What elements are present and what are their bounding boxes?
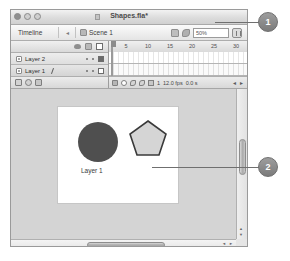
stage-canvas[interactable]: Layer 1 [57,106,179,204]
callout-badge-2: 2 [258,157,278,177]
scene-label: Scene 1 [89,29,113,36]
window-title: Shapes.fla* [11,12,247,19]
onion-outline-icon[interactable] [139,80,145,86]
horizontal-scroll-arrows: ◄ ► [222,242,233,246]
current-frame-value: 1 [157,80,160,86]
outline-color-swatch[interactable] [98,56,104,62]
pentagon-shape[interactable] [128,119,168,159]
layer-toolbar [11,76,108,88]
layer-row[interactable]: Layer 2 [11,53,108,65]
scroll-right-icon[interactable]: ► [229,242,233,246]
edit-scene-icon[interactable] [171,29,179,37]
timeline-panel-label: Timeline [11,29,58,36]
horizontal-scroll-thumb[interactable] [87,242,165,247]
elapsed-time-value: 0.0 s [186,80,198,86]
lock-toggle[interactable] [92,70,94,72]
outline-color-swatch[interactable] [98,68,104,74]
layer-name-label: Layer 1 [25,68,45,74]
edit-multiple-icon[interactable] [148,80,154,86]
motion-guide-icon[interactable] [25,79,32,86]
layer-controls [86,56,108,62]
scene-icon [80,29,87,36]
frame-nav: ◄ ► [232,80,247,86]
scene-breadcrumb[interactable]: Scene 1 [76,29,113,36]
stage-text-label[interactable]: Layer 1 [81,167,103,174]
scroll-left-icon[interactable]: ◄ [222,242,226,246]
stage-area[interactable]: Layer 1 ▲ ▼ ◄ ► [11,89,247,247]
center-frame-icon[interactable] [121,80,127,86]
timeline-status-bar: 1 12.0 fps 0.0 s ◄ ► [109,76,247,88]
fps-value[interactable]: 12.0 fps [163,80,183,86]
layer-icon [16,56,22,62]
ruler-tick: 20 [189,43,195,49]
playhead-handle[interactable] [111,41,116,47]
application-window: Shapes.fla* Timeline ◂ Scene 1 50% [10,9,248,247]
frames-column: 5 10 15 20 25 30 1 12.0 fps [109,41,247,88]
ruler-tick: 15 [167,43,173,49]
layer-name-label: Layer 2 [25,56,45,62]
callout-badge-1: 1 [258,12,278,32]
visibility-toggle[interactable] [86,58,88,60]
ruler-tick: 5 [124,43,127,49]
vertical-scrollbar[interactable]: ▲ ▼ [236,89,247,239]
timeline-body: Layer 2 Layer 1 [11,41,247,89]
new-folder-icon[interactable] [35,79,42,86]
onion-skin-icon[interactable] [130,80,136,86]
vertical-scroll-thumb[interactable] [239,139,246,175]
layer-controls [86,68,108,74]
title-bar[interactable]: Shapes.fla* [11,10,247,25]
scroll-down-icon[interactable]: ▼ [239,233,243,237]
ruler-tick: 10 [145,43,151,49]
timeline-right-controls: 50% [171,28,247,38]
resize-grip[interactable] [236,239,247,247]
horizontal-scrollbar[interactable]: ◄ ► [11,239,236,247]
zoom-level-input[interactable]: 50% [193,28,229,38]
ruler-tick: 25 [211,43,217,49]
timeline-header-bar: Timeline ◂ Scene 1 50% [11,25,247,41]
layers-column-header [11,41,108,53]
pencil-icon [50,68,56,74]
lock-toggle[interactable] [92,58,94,60]
panel-menu-icon[interactable] [232,28,242,38]
ruler-tick: 30 [233,43,239,49]
frame-row[interactable] [109,52,247,64]
frame-row[interactable] [109,64,247,76]
layers-column: Layer 2 Layer 1 [11,41,109,88]
delete-layer-icon[interactable] [112,80,118,86]
chevron-left-icon[interactable]: ◂ [59,29,75,36]
prev-frame-icon[interactable]: ◄ [232,80,237,86]
callout-leader-line [152,167,264,168]
layer-icon [16,68,22,74]
visibility-toggle[interactable] [86,70,88,72]
outline-icon[interactable] [96,43,103,50]
lock-icon[interactable] [85,43,92,50]
vertical-scroll-arrows: ▲ ▼ [239,227,243,237]
next-frame-icon[interactable]: ► [239,80,244,86]
circle-shape[interactable] [78,122,118,162]
scroll-up-icon[interactable]: ▲ [239,227,243,231]
new-layer-icon[interactable] [15,79,22,86]
eye-icon[interactable] [74,44,81,49]
frames-grid[interactable] [109,52,247,76]
edit-symbol-icon[interactable] [182,29,190,37]
